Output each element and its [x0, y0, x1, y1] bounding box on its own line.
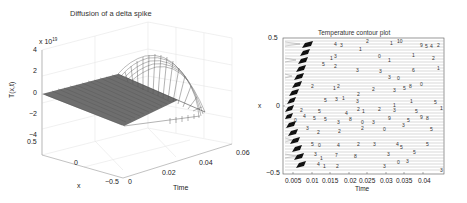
- svg-text:2: 2: [334, 63, 337, 69]
- svg-text:2: 2: [357, 141, 360, 147]
- svg-text:0: 0: [397, 75, 400, 81]
- time-tick-0.02: 0.02: [344, 177, 357, 184]
- svg-text:1: 1: [323, 163, 326, 169]
- svg-text:8: 8: [354, 153, 357, 159]
- y-axis-label: x: [258, 102, 261, 109]
- svg-text:3: 3: [306, 125, 309, 131]
- svg-text:0: 0: [378, 53, 381, 59]
- svg-text:2: 2: [311, 83, 314, 89]
- svg-text:1: 1: [362, 108, 365, 114]
- time-tick-0.03: 0.03: [380, 177, 393, 184]
- svg-text:3: 3: [356, 67, 359, 73]
- time-tick-0.025: 0.025: [359, 177, 375, 184]
- svg-text:1: 1: [410, 98, 413, 104]
- svg-text:1: 1: [359, 46, 362, 52]
- svg-text:1: 1: [412, 52, 415, 58]
- svg-text:3: 3: [379, 68, 382, 74]
- svg-text:3: 3: [402, 122, 405, 128]
- svg-text:8: 8: [426, 115, 429, 121]
- svg-text:0: 0: [318, 142, 321, 148]
- time-tick-0.015: 0.015: [322, 177, 338, 184]
- svg-text:4: 4: [430, 43, 433, 49]
- svg-text:2: 2: [317, 129, 320, 135]
- svg-text:8: 8: [409, 83, 412, 89]
- svg-text:2: 2: [336, 163, 339, 169]
- svg-text:5: 5: [434, 99, 437, 105]
- svg-text:5: 5: [322, 61, 325, 67]
- svg-text:3: 3: [340, 42, 343, 48]
- svg-text:9: 9: [388, 115, 391, 121]
- svg-text:1: 1: [330, 55, 333, 61]
- z-axis-label: T(x,t): [8, 82, 15, 98]
- time-tick-0.06: 0.06: [236, 149, 250, 156]
- svg-text:2: 2: [432, 55, 435, 61]
- svg-text:4: 4: [396, 141, 399, 147]
- contour-plot-title: Temperature contour plot: [318, 29, 390, 36]
- svg-text:3: 3: [335, 96, 338, 102]
- svg-text:5: 5: [407, 117, 410, 123]
- svg-text:2: 2: [366, 38, 369, 44]
- svg-text:3: 3: [440, 167, 443, 173]
- svg-text:6: 6: [412, 67, 415, 73]
- svg-text:10: 10: [397, 38, 403, 44]
- svg-text:1: 1: [388, 57, 391, 63]
- svg-text:7: 7: [335, 152, 338, 158]
- svg-text:3: 3: [393, 107, 396, 113]
- svg-text:1: 1: [320, 155, 323, 161]
- y-tick-0.5: 0.5: [268, 34, 278, 41]
- svg-text:0: 0: [294, 117, 297, 123]
- svg-text:3: 3: [334, 53, 337, 59]
- svg-text:1: 1: [390, 40, 393, 46]
- svg-text:5: 5: [311, 141, 314, 147]
- svg-text:2: 2: [338, 128, 341, 134]
- svg-text:9: 9: [420, 42, 423, 48]
- y-tick-neg0.5: −0.5: [266, 169, 280, 176]
- svg-text:5: 5: [430, 126, 433, 132]
- svg-text:3: 3: [393, 87, 396, 93]
- time-tick-0.02: 0.02: [162, 169, 176, 176]
- svg-text:4: 4: [303, 113, 306, 119]
- svg-text:4: 4: [334, 41, 337, 47]
- x-tick-0: 0: [74, 159, 78, 166]
- contour-x-axis-label: Time: [355, 185, 369, 192]
- z-tick-2: 2: [33, 67, 37, 74]
- svg-text:2: 2: [378, 106, 381, 112]
- svg-text:1: 1: [342, 95, 345, 101]
- svg-text:3: 3: [406, 158, 409, 164]
- svg-text:5: 5: [318, 108, 321, 114]
- svg-text:0: 0: [383, 126, 386, 132]
- svg-text:3: 3: [314, 151, 317, 157]
- svg-text:5: 5: [324, 97, 327, 103]
- surface-mesh: [42, 54, 205, 126]
- svg-text:1: 1: [440, 105, 443, 111]
- svg-text:3: 3: [337, 119, 340, 125]
- svg-text:3: 3: [383, 163, 386, 169]
- svg-text:1: 1: [437, 65, 440, 71]
- svg-text:4: 4: [337, 142, 340, 148]
- z-tick-0: 0: [33, 89, 37, 96]
- svg-text:0: 0: [397, 159, 400, 165]
- svg-text:3: 3: [373, 141, 376, 147]
- svg-text:9: 9: [420, 114, 423, 120]
- svg-text:5: 5: [400, 144, 403, 150]
- svg-text:3: 3: [388, 74, 391, 80]
- svg-text:2: 2: [361, 125, 364, 131]
- svg-text:3: 3: [356, 98, 359, 104]
- svg-text:2: 2: [357, 106, 360, 112]
- time-axis-label: Time: [173, 184, 188, 191]
- surface-plot-title: Diffusion of a delta spike: [70, 9, 152, 18]
- svg-text:5: 5: [324, 116, 327, 122]
- svg-text:0: 0: [420, 81, 423, 87]
- svg-text:8: 8: [349, 116, 352, 122]
- svg-text:3: 3: [387, 151, 390, 157]
- svg-text:2: 2: [357, 91, 360, 97]
- time-tick-0.04: 0.04: [418, 177, 431, 184]
- time-tick-0.04: 0.04: [199, 159, 213, 166]
- x-tick-neg0.5: −0.5: [105, 178, 119, 185]
- z-tick-neg2: −2: [29, 110, 37, 117]
- z-tick-4: 4: [33, 46, 37, 53]
- svg-text:5: 5: [426, 141, 429, 147]
- svg-text:5: 5: [413, 149, 416, 155]
- svg-text:4: 4: [317, 161, 320, 167]
- svg-text:5: 5: [425, 43, 428, 49]
